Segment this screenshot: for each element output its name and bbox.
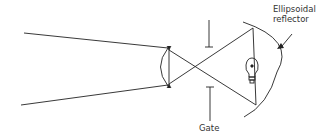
lens: [161, 46, 172, 88]
gate-label: Gate: [199, 123, 219, 133]
lamp-bulb-icon: [246, 58, 258, 83]
reflector-label: Ellipsoidal reflector: [273, 4, 316, 24]
gate-lower-shutter: [206, 87, 214, 121]
ellipsoidal-reflector: [243, 22, 282, 117]
ray-lens-bottom-to-reflector-top: [169, 28, 253, 84]
gate-upper-shutter: [205, 20, 213, 47]
reflector-label-line1: Ellipsoidal: [273, 4, 316, 14]
beam-upper-ray: [24, 33, 168, 48]
beam-lower-ray: [21, 85, 168, 105]
reflector-pointer-line: [282, 34, 292, 46]
ray-lens-top-to-reflector-bottom: [169, 50, 256, 105]
reflector-label-line2: reflector: [273, 14, 316, 24]
